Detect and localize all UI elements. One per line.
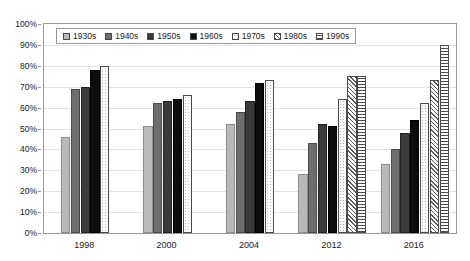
bar-group [291,24,373,233]
bar-group [374,24,456,233]
bar-group [126,24,208,233]
y-axis-tick-mark [38,108,41,109]
bar-1940s-2004 [236,112,245,233]
legend-swatch-icon [63,33,70,40]
legend-swatch-icon [316,33,323,40]
legend-item-1950s[interactable]: 1950s [147,32,180,40]
legend-item-label: 1940s [115,32,138,40]
bar-1970s-1998 [100,66,109,233]
x-axis-tick-label: 2012 [321,240,341,250]
y-axis-tick-label: 10% [20,208,37,216]
bar-1960s-2016 [410,120,419,233]
y-axis-tick-label: 20% [20,187,37,195]
y-axis-tick-label: 30% [20,166,37,174]
legend-item-1960s[interactable]: 1960s [190,32,223,40]
legend-item-1970s[interactable]: 1970s [232,32,265,40]
bar-1980s-2012 [347,76,356,233]
bar-1990s-2012 [357,76,366,233]
legend-item-1930s[interactable]: 1930s [63,32,96,40]
bar-1940s-2000 [153,103,162,233]
bar-1950s-2004 [245,101,254,233]
bar-1960s-2004 [255,83,264,233]
y-axis-tick-label: 40% [20,145,37,153]
legend-item-label: 1970s [242,32,265,40]
bar-1970s-2000 [183,95,192,233]
y-axis-tick-mark [38,212,41,213]
bar-1990s-2016 [440,45,449,233]
bar-1950s-2000 [163,101,172,233]
legend-item-1990s[interactable]: 1990s [316,32,349,40]
x-axis-tick-label: 1998 [74,240,94,250]
bar-1930s-2016 [381,164,390,233]
bar-group [44,24,126,233]
x-axis-tick-label: 2000 [157,240,177,250]
bar-1940s-1998 [71,89,80,233]
bar-1960s-2000 [173,99,182,233]
legend-item-label: 1950s [157,32,180,40]
bar-chart: 100%90%80%70%60%50%40%30%20%10%0% 199820… [0,0,470,261]
bar-1950s-2012 [318,124,327,233]
legend-swatch-icon [147,33,154,40]
y-axis-tick-mark [38,66,41,67]
bar-1940s-2016 [391,149,400,233]
y-axis-tick-label: 50% [20,125,37,133]
y-axis-tick-label: 100% [15,20,37,28]
y-axis: 100%90%80%70%60%50%40%30%20%10%0% [0,23,41,234]
bar-1930s-2000 [143,126,152,233]
bar-1930s-2004 [226,124,235,233]
bar-1930s-2012 [298,174,307,233]
bar-1970s-2016 [420,103,429,233]
y-axis-tick-mark [38,24,41,25]
chart-legend: 1930s1940s1950s1960s1970s1980s1990s [56,28,356,44]
bar-1960s-2012 [328,126,337,233]
bar-1960s-1998 [90,70,99,233]
x-axis: 19982000200420122016 [43,236,457,258]
legend-swatch-icon [105,33,112,40]
legend-item-label: 1960s [200,32,223,40]
y-axis-tick-mark [38,191,41,192]
bar-1930s-1998 [61,137,70,233]
legend-item-1980s[interactable]: 1980s [274,32,307,40]
bar-1970s-2012 [338,99,347,233]
x-axis-tick-label: 2004 [239,240,259,250]
bars-layer [44,24,456,233]
y-axis-tick-label: 80% [20,62,37,70]
y-axis-tick-mark [38,170,41,171]
y-axis-tick-label: 60% [20,104,37,112]
bar-1950s-2016 [400,133,409,233]
y-axis-tick-mark [38,45,41,46]
y-axis-tick-mark [38,149,41,150]
y-axis-tick-mark [38,129,41,130]
y-axis-tick-label: 0% [25,229,37,237]
legend-swatch-icon [274,33,281,40]
x-axis-tick-label: 2016 [404,240,424,250]
y-axis-tick-label: 70% [20,83,37,91]
y-axis-tick-mark [38,87,41,88]
bar-1970s-2004 [265,80,274,233]
bar-1940s-2012 [308,143,317,233]
legend-swatch-icon [190,33,197,40]
legend-item-1940s[interactable]: 1940s [105,32,138,40]
y-axis-tick-mark [38,233,41,234]
legend-swatch-icon [232,33,239,40]
bar-group [209,24,291,233]
legend-item-label: 1930s [73,32,96,40]
bar-1980s-2016 [430,80,439,233]
legend-item-label: 1980s [284,32,307,40]
legend-item-label: 1990s [326,32,349,40]
bar-1950s-1998 [81,87,90,233]
y-axis-tick-label: 90% [20,41,37,49]
